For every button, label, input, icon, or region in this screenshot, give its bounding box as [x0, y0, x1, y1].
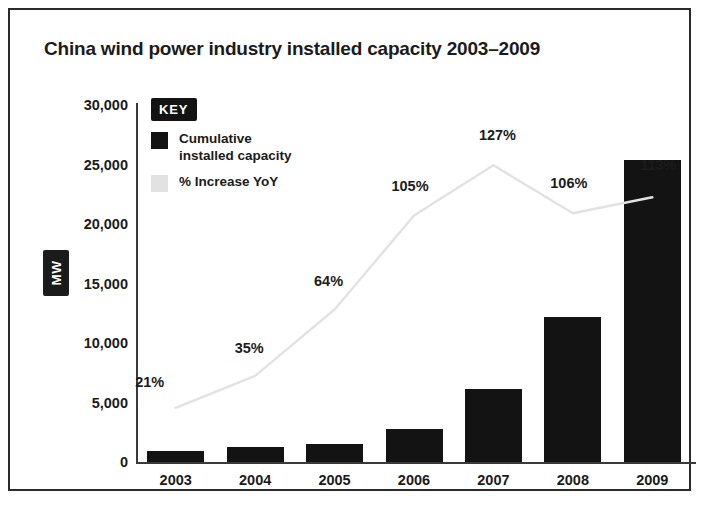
- bar-2009: [624, 160, 681, 462]
- pct-increase-label-2006: 105%: [391, 178, 428, 194]
- x-axis-tick-label: 2004: [239, 472, 271, 488]
- chart-legend: KEY Cumulative installed capacity % Incr…: [151, 98, 331, 192]
- chart-figure: China wind power industry installed capa…: [0, 0, 707, 519]
- x-axis-tick-label: 2003: [160, 472, 192, 488]
- legend-item-cumulative-installed-capacity: Cumulative installed capacity: [151, 131, 331, 164]
- y-axis-tick-label: 0: [48, 454, 128, 470]
- x-axis-tick-label: 2008: [557, 472, 589, 488]
- y-axis-label-text: MW: [49, 261, 64, 286]
- x-axis-ticks: 2003200420052006200720082009: [136, 472, 696, 496]
- x-axis-tick-label: 2006: [398, 472, 430, 488]
- y-axis-tick-label: 5,000: [48, 395, 128, 411]
- y-axis-tick-label: 20,000: [48, 216, 128, 232]
- legend-heading: KEY: [151, 98, 197, 121]
- bar-2005: [306, 444, 363, 462]
- bar-2004: [227, 447, 284, 462]
- x-axis-tick-label: 2005: [318, 472, 350, 488]
- chart-frame: China wind power industry installed capa…: [8, 8, 691, 491]
- bar-2006: [386, 429, 443, 462]
- legend-swatch-line-icon: [151, 175, 168, 192]
- x-axis-tick-label: 2007: [477, 472, 509, 488]
- pct-increase-label-2005: 64%: [314, 273, 343, 289]
- pct-increase-label-2009: 113%: [640, 157, 676, 173]
- y-axis-tick-label: 25,000: [48, 157, 128, 173]
- pct-increase-label-2004: 35%: [235, 340, 264, 356]
- legend-item-pct-increase-yoy: % Increase YoY: [151, 174, 331, 192]
- legend-label-pct-increase: % Increase YoY: [179, 174, 278, 191]
- pct-increase-label-2008: 106%: [550, 175, 587, 191]
- legend-label-cumulative: Cumulative installed capacity: [179, 131, 292, 164]
- bar-2007: [465, 389, 522, 462]
- y-axis-label-badge: MW: [43, 250, 69, 296]
- legend-swatch-bar-icon: [151, 132, 168, 149]
- x-axis-tick-label: 2009: [636, 472, 668, 488]
- pct-increase-label-2003: 21%: [135, 374, 164, 390]
- pct-increase-label-2007: 127%: [479, 127, 516, 143]
- y-axis-tick-label: 10,000: [48, 335, 128, 351]
- y-axis-tick-label: 30,000: [48, 97, 128, 113]
- bar-2008: [544, 317, 601, 462]
- x-axis-line: [136, 462, 696, 464]
- chart-title: China wind power industry installed capa…: [44, 38, 540, 60]
- bar-2003: [147, 451, 204, 462]
